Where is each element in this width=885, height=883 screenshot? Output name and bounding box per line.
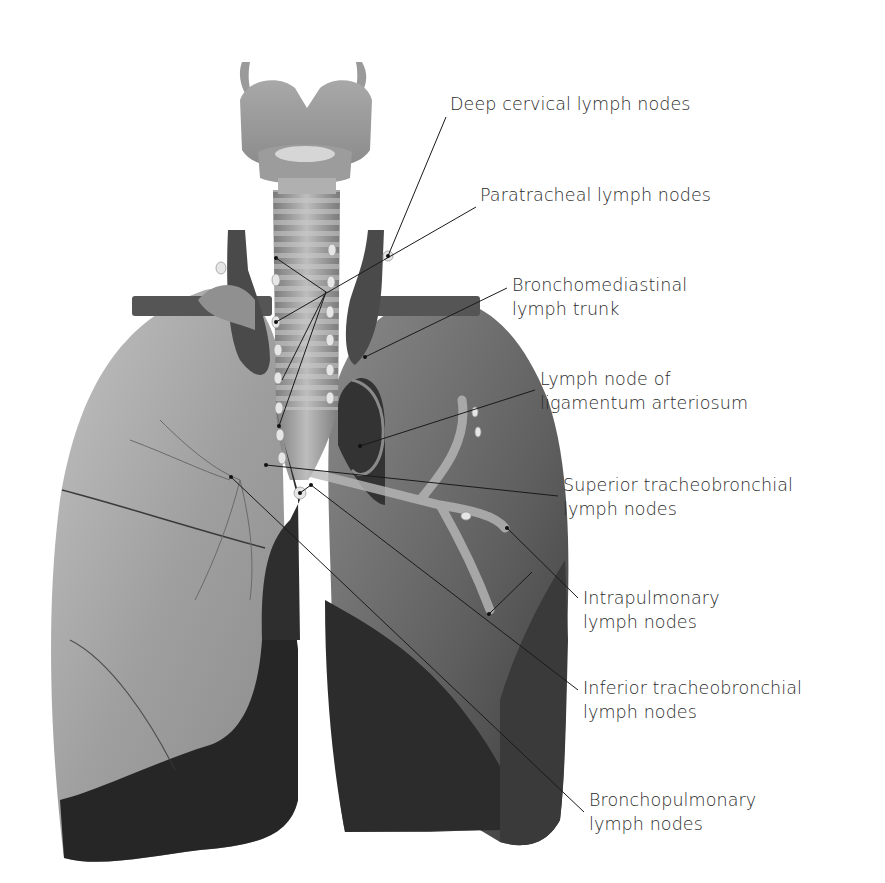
label-line: lymph nodes — [583, 610, 720, 634]
label-line: Superior tracheobronchial — [563, 473, 793, 497]
label-line: Lymph node of — [540, 367, 748, 391]
label-line: lymph nodes — [589, 812, 756, 836]
label-line: Inferior tracheobronchial — [583, 676, 802, 700]
label-deep-cervical-lymph-nodes: Deep cervical lymph nodes — [450, 92, 691, 116]
label-line: lymph trunk — [512, 297, 687, 321]
label-line: ligamentum arteriosum — [540, 391, 748, 415]
label-line: Paratracheal lymph nodes — [480, 183, 711, 207]
label-line: Bronchopulmonary — [589, 788, 756, 812]
label-line: lymph nodes — [563, 497, 793, 521]
left-lung — [300, 298, 568, 845]
label-bronchomediastinal-lymph-trunk: Bronchomediastinal lymph trunk — [512, 273, 687, 321]
larynx — [240, 62, 372, 194]
label-line: lymph nodes — [583, 700, 802, 724]
leader-deep-cervical — [388, 117, 446, 256]
label-superior-tracheobronchial-lymph-nodes: Superior tracheobronchial lymph nodes — [563, 473, 793, 521]
label-bronchopulmonary-lymph-nodes: Bronchopulmonary lymph nodes — [589, 788, 756, 836]
label-line: Intrapulmonary — [583, 586, 720, 610]
label-inferior-tracheobronchial-lymph-nodes: Inferior tracheobronchial lymph nodes — [583, 676, 802, 724]
label-intrapulmonary-lymph-nodes: Intrapulmonary lymph nodes — [583, 586, 720, 634]
lymph-node-diagram: Deep cervical lymph nodes Paratracheal l… — [0, 0, 885, 883]
label-line: Bronchomediastinal — [512, 273, 687, 297]
lung-illustration — [0, 0, 885, 883]
label-lymph-node-of-ligamentum-arteriosum: Lymph node of ligamentum arteriosum — [540, 367, 748, 415]
label-paratracheal-lymph-nodes: Paratracheal lymph nodes — [480, 183, 711, 207]
label-line: Deep cervical lymph nodes — [450, 92, 691, 116]
